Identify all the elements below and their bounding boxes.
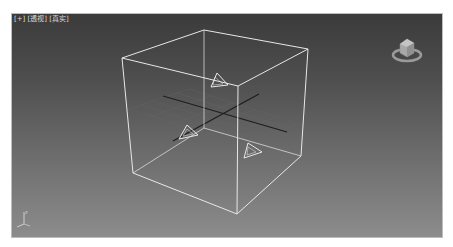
viewcube-icon[interactable]	[390, 34, 424, 64]
perspective-viewport[interactable]: [+] [透视] [真实]	[11, 13, 443, 238]
svg-text:z: z	[25, 209, 28, 215]
light-gizmo-icon[interactable]	[244, 143, 262, 158]
cube-wireframe[interactable]	[122, 30, 308, 214]
light-gizmo-icon[interactable]	[211, 73, 228, 87]
scene-canvas[interactable]	[12, 14, 443, 238]
home-grid	[129, 89, 323, 151]
axis-tripod-icon: z	[14, 206, 36, 230]
